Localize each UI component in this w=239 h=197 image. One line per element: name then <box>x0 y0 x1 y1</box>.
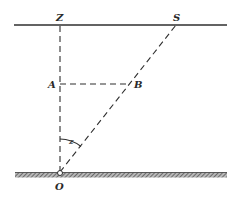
point-O-marker <box>58 171 63 176</box>
label-O: O <box>55 181 64 192</box>
ground-hatched-line <box>15 173 227 178</box>
label-Z: Z <box>55 12 64 23</box>
label-B: B <box>133 79 142 90</box>
label-A: A <box>47 79 56 90</box>
label-angle-z: z <box>68 136 74 146</box>
zenith-angle-diagram: Z S A B O z <box>0 0 239 197</box>
label-S: S <box>173 12 180 23</box>
slant-dashed-line-OS <box>60 25 176 172</box>
